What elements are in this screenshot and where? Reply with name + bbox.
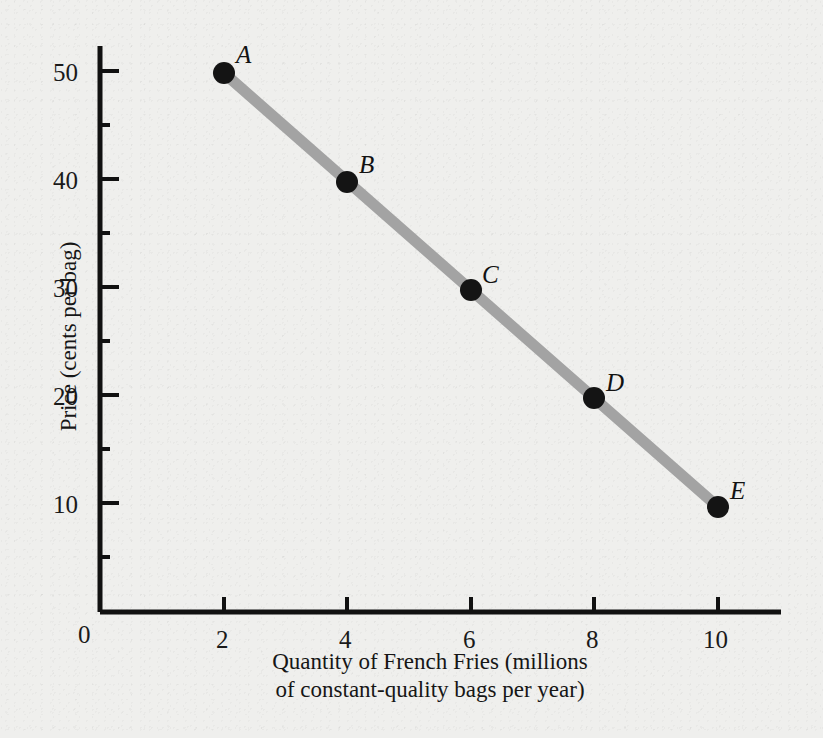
data-point-b[interactable] [336, 171, 358, 193]
data-point-c[interactable] [460, 279, 482, 301]
x-axis-title: Quantity of French Fries (millions of co… [250, 648, 610, 704]
point-label-c: C [482, 262, 499, 287]
data-point-e[interactable] [707, 496, 729, 518]
data-point-d[interactable] [583, 387, 605, 409]
origin-label: 0 [78, 622, 91, 647]
point-label-a: A [236, 42, 251, 67]
y-tick-label-50: 50 [53, 60, 78, 85]
x-axis-title-line-1: Quantity of French Fries (millions [250, 648, 610, 676]
point-label-b: B [359, 152, 374, 177]
y-major-ticks [100, 71, 119, 503]
plot-area [0, 0, 823, 738]
point-label-d: D [606, 370, 624, 395]
x-tick-label-2: 2 [216, 627, 229, 652]
data-point-a[interactable] [213, 62, 235, 84]
x-tick-label-10: 10 [703, 627, 728, 652]
demand-curve-figure: 10 20 30 40 50 0 2 4 6 8 10 A B C D E Pr… [0, 0, 823, 738]
point-label-e: E [730, 478, 745, 503]
y-tick-label-10: 10 [53, 492, 78, 517]
x-axis-title-line-2: of constant-quality bags per year) [250, 676, 610, 704]
y-tick-label-40: 40 [53, 168, 78, 193]
y-axis-title: Price (cents per bag) [57, 207, 80, 467]
